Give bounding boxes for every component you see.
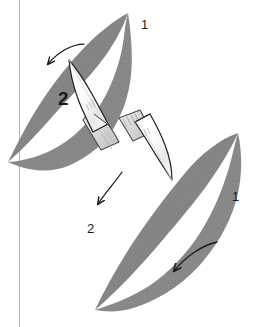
label-2-upper: 2 <box>58 89 69 108</box>
label-2-lower: 2 <box>87 222 94 235</box>
upper-leaf-shape <box>8 13 132 171</box>
label-1-top: 1 <box>141 18 148 31</box>
lower-scalpel <box>119 110 172 180</box>
leaf-dissection-illustration <box>0 0 258 327</box>
arrow-middle-left <box>98 172 122 204</box>
label-1-bottom: 1 <box>232 190 239 203</box>
figure-root: 1 2 2 1 <box>0 0 258 327</box>
